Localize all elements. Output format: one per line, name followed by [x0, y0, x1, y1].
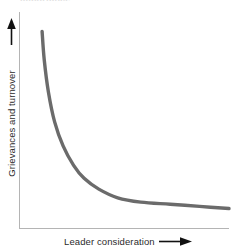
x-axis-group: Leader consideration — [64, 236, 193, 247]
plot-curve-layer — [0, 0, 237, 251]
y-axis-label: Grievances and turnover — [6, 39, 17, 209]
y-axis-group: Grievances and turnover — [0, 18, 20, 228]
decay-curve — [42, 31, 229, 208]
figure-container: importance Grievances and turnover Leade… — [0, 0, 237, 251]
x-axis-label: Leader consideration — [64, 236, 155, 247]
arrow-right-icon — [159, 236, 193, 247]
